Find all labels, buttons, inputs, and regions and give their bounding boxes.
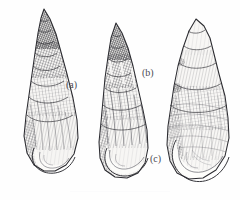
caption-rule (70, 191, 170, 192)
figure-label-c: (c) (150, 154, 161, 164)
shell-c-drawing (164, 15, 232, 184)
shell-a-drawing (20, 5, 86, 178)
shell-illustrations (0, 0, 240, 200)
shell-b-drawing (96, 20, 152, 182)
illustration-plate: (a) (b) (c) (0, 0, 240, 200)
figure-label-a: (a) (66, 80, 77, 90)
figure-label-b: (b) (142, 68, 154, 78)
